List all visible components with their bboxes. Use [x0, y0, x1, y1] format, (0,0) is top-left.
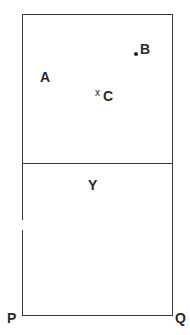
bottom-edge-pq [22, 315, 173, 316]
top-edge [22, 14, 173, 15]
right-edge [172, 14, 173, 316]
point-a-label: A [40, 70, 50, 84]
left-edge-lower [22, 230, 23, 316]
point-c-x-icon: x [95, 88, 100, 98]
corner-q-label: Q [175, 311, 186, 325]
divider-line [22, 163, 173, 164]
left-edge-upper [22, 14, 23, 220]
corner-p-label: P [7, 311, 16, 325]
region-y-label: Y [88, 178, 97, 192]
point-b-dot-icon [134, 52, 138, 56]
point-b-label: B [140, 42, 150, 56]
point-c-label: C [103, 89, 113, 103]
